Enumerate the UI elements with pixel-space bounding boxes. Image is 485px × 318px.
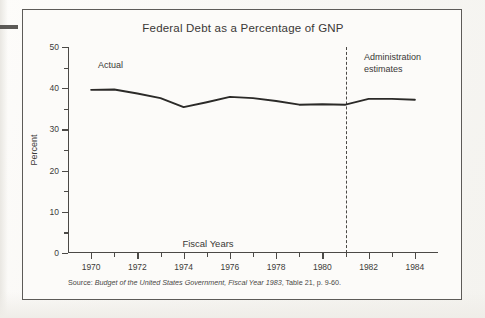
- x-tick-minor: [346, 253, 347, 257]
- data-series-line: [68, 47, 438, 253]
- y-tick-label: 10: [50, 207, 59, 217]
- x-tick-major: [184, 253, 185, 259]
- figure-frame: Federal Debt as a Percentage of GNP 0102…: [22, 9, 462, 300]
- x-tick-minor: [392, 253, 393, 257]
- source-note: Source: Budget of the United States Gove…: [68, 278, 341, 287]
- x-tick-label: 1980: [313, 262, 332, 272]
- x-tick-label: 1974: [174, 262, 193, 272]
- x-tick-major: [415, 253, 416, 259]
- x-tick-major: [276, 253, 277, 259]
- y-axis-title: Percent: [29, 134, 39, 165]
- source-prefix: Source:: [68, 278, 95, 287]
- chart-title: Federal Debt as a Percentage of GNP: [23, 22, 463, 34]
- x-tick-label: 1970: [82, 262, 101, 272]
- page-edge-shadow: [0, 0, 8, 318]
- x-tick-label: 1972: [128, 262, 147, 272]
- source-publication: Budget of the United States Government, …: [95, 278, 282, 287]
- plot-area: 01020304050 1970197219741976197819801982…: [68, 47, 438, 253]
- x-tick-minor: [161, 253, 162, 257]
- x-tick-label: 1984: [405, 262, 424, 272]
- scan-edge-artifact: [0, 25, 18, 29]
- y-tick-label: 40: [50, 83, 59, 93]
- y-tick-major: [62, 253, 68, 254]
- y-tick-label: 30: [50, 124, 59, 134]
- y-tick-label: 20: [50, 166, 59, 176]
- x-tick-label: 1982: [359, 262, 378, 272]
- x-tick-minor: [299, 253, 300, 257]
- source-suffix: , Table 21, p. 9-60.: [282, 278, 341, 287]
- y-tick-label: 50: [50, 42, 59, 52]
- x-axis-title: Fiscal Years: [182, 238, 233, 249]
- x-tick-label: 1978: [267, 262, 286, 272]
- x-tick-major: [91, 253, 92, 259]
- x-tick-major: [230, 253, 231, 259]
- x-tick-major: [322, 253, 323, 259]
- x-tick-minor: [207, 253, 208, 257]
- y-tick-label: 0: [54, 248, 59, 258]
- x-tick-minor: [253, 253, 254, 257]
- x-tick-minor: [114, 253, 115, 257]
- x-tick-label: 1976: [220, 262, 239, 272]
- x-tick-major: [369, 253, 370, 259]
- x-tick-major: [137, 253, 138, 259]
